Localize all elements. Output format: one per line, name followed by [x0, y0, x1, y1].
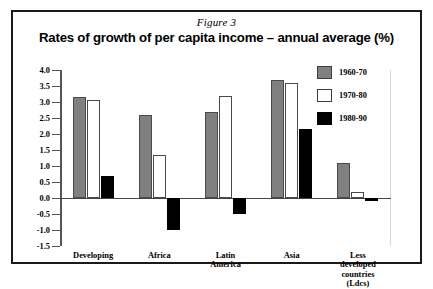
figure-frame: Figure 3 Rates of growth of per capita i… [11, 10, 422, 264]
x-axis-category-label: Asia [259, 251, 325, 260]
bar [271, 80, 284, 198]
bar [299, 129, 312, 198]
bar [351, 192, 364, 198]
y-axis-tick [52, 150, 60, 151]
bar-group [259, 70, 325, 246]
y-axis-tick-label: 4.0 [20, 66, 50, 75]
y-axis-tick-label: -1.5 [20, 242, 50, 251]
bar-group [60, 70, 126, 246]
legend-swatch [317, 66, 332, 79]
legend-item: 1960-70 [317, 64, 367, 81]
figure-label: Figure 3 [13, 16, 420, 28]
y-axis-tick-label: 0.5 [20, 178, 50, 187]
legend-label: 1960-70 [339, 68, 367, 77]
legend-item: 1980-90 [317, 110, 367, 127]
bar [365, 198, 378, 201]
y-axis-tick-label: 0.0 [20, 194, 50, 203]
y-axis-tick-label: -0.5 [20, 210, 50, 219]
bar [101, 176, 114, 198]
bar [219, 96, 232, 198]
y-axis-tick [52, 118, 60, 119]
x-axis-category-label: Latin America [192, 251, 258, 270]
x-axis-category-label: Less developed countries (Ldcs) [325, 251, 391, 289]
bar [285, 83, 298, 198]
legend-swatch [317, 89, 332, 102]
x-axis-category-label: Africa [126, 251, 192, 260]
bar-group [126, 70, 192, 246]
legend-label: 1980-90 [339, 114, 367, 123]
legend-label: 1970-80 [339, 91, 367, 100]
y-axis-tick [52, 86, 60, 87]
legend: 1960-701970-801980-90 [317, 64, 367, 133]
bar [87, 100, 100, 198]
bar [233, 198, 246, 214]
bar [73, 97, 86, 198]
y-axis-tick [52, 214, 60, 215]
y-axis-tick-label: 1.0 [20, 162, 50, 171]
y-axis-tick-label: -1.0 [20, 226, 50, 235]
y-axis-tick [52, 246, 60, 247]
y-axis-tick-label: 3.5 [20, 82, 50, 91]
y-axis-tick [52, 70, 60, 71]
y-axis-tick [52, 134, 60, 135]
y-axis-tick [52, 230, 60, 231]
y-axis-tick [52, 166, 60, 167]
y-axis-tick-label: 2.0 [20, 130, 50, 139]
bar [337, 163, 350, 198]
y-axis-tick-label: 2.5 [20, 114, 50, 123]
legend-item: 1970-80 [317, 87, 367, 104]
y-axis-tick-label: 1.5 [20, 146, 50, 155]
bar [205, 112, 218, 198]
y-axis-tick-label: 3.0 [20, 98, 50, 107]
bar [139, 115, 152, 198]
bar-group [192, 70, 258, 246]
y-axis-tick [52, 102, 60, 103]
y-axis-tick [52, 198, 60, 199]
bar [167, 198, 180, 230]
bar [153, 155, 166, 198]
y-axis-tick [52, 182, 60, 183]
chart-title: Rates of growth of per capita income – a… [13, 30, 420, 45]
legend-swatch [317, 112, 332, 125]
x-axis-category-label: Developing [60, 251, 126, 260]
